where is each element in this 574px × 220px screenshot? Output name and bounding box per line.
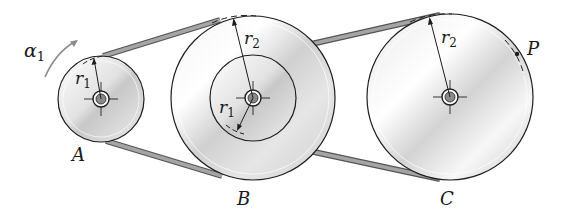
pulley-a-label: A (70, 144, 85, 165)
diagram-canvas: α1 r1 r2 r1 r2 P A B C (0, 0, 574, 220)
pulley-diagram: α1 r1 r2 r1 r2 P A B C (0, 0, 574, 220)
alpha-label: α1 (24, 39, 45, 64)
pulley-c-label: C (440, 188, 454, 209)
pulley-b-label: B (236, 188, 250, 209)
pulley-a (58, 56, 144, 142)
point-p-label: P (526, 38, 540, 59)
point-p-marker (515, 52, 519, 56)
